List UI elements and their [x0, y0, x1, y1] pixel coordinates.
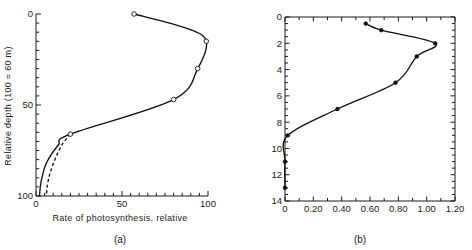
panel-a-data-markers [68, 12, 208, 137]
panel-a-solid-curve [39, 14, 206, 196]
panel-b-tick-marks [285, 17, 455, 201]
panel-b-data-point [364, 22, 368, 26]
panel-b-x-tick-label: 0.40 [332, 203, 351, 214]
panel-b-x-tick-label: 0.80 [389, 203, 408, 214]
panel-b-y-tick-label: 0 [277, 11, 282, 22]
panel-b-x-tick-label: 1.20 [446, 203, 465, 214]
scientific-figure: 050100 050100 Rate of photosynthesis, re… [0, 0, 472, 250]
panel-b-data-point [394, 81, 398, 85]
panel-a: 050100 050100 Rate of photosynthesis, re… [3, 8, 216, 245]
panel-b-y-tick-label: 14 [271, 195, 282, 206]
panel-b-y-tick-label: 2 [277, 38, 282, 49]
panel-b-data-point [283, 160, 287, 164]
panel-a-x-tick-label: 0 [33, 198, 38, 209]
panel-b-axes [285, 17, 455, 201]
panel-a-x-tick-label: 50 [117, 198, 128, 209]
panel-a-y-tick-label: 50 [22, 99, 33, 110]
panel-a-data-point [195, 66, 200, 71]
panel-b-data [283, 22, 437, 190]
panel-a-data-point [132, 12, 137, 17]
panel-a-axis-lines [36, 14, 208, 196]
panel-b-x-tick-label: 0.20 [304, 203, 323, 214]
panel-a-data-point [204, 39, 209, 44]
panel-a-axes [36, 14, 208, 196]
panel-a-y-axis-title: Relative depth (100 = 60 m) [3, 46, 13, 165]
panel-b-data-point [336, 107, 340, 111]
panel-b-solid-curve [283, 24, 436, 188]
panel-a-dashed-curve [46, 134, 70, 196]
panel-b-axis-frame [285, 17, 455, 201]
panel-b-data-point [433, 41, 437, 45]
figure-canvas: 050100 050100 Rate of photosynthesis, re… [0, 0, 472, 250]
panel-a-y-tick-label: 100 [17, 190, 33, 201]
panel-b-y-tick-labels: 02468101214 [271, 11, 282, 206]
panel-b-x-tick-label: 0 [282, 203, 287, 214]
panel-b-x-tick-labels: 00.200.400.600.801.001.20 [282, 203, 464, 214]
panel-a-caption: (a) [114, 234, 126, 245]
panel-b-caption: (b) [354, 234, 366, 245]
panel-a-y-tick-labels: 050100 [17, 8, 33, 201]
panel-b-data-point [286, 133, 290, 137]
panel-b-data-point [379, 28, 383, 32]
panel-b-data-point [283, 186, 287, 190]
panel-b: 00.200.400.600.801.001.20 02468101214 (b… [271, 11, 464, 245]
panel-a-data-point [171, 97, 176, 102]
panel-a-y-tick-label: 0 [28, 8, 33, 19]
panel-b-y-tick-label: 4 [277, 64, 282, 75]
panel-b-x-tick-label: 0.60 [361, 203, 380, 214]
panel-a-tick-marks [36, 14, 208, 196]
panel-b-data-point [415, 55, 419, 59]
panel-a-data [39, 12, 208, 196]
panel-a-x-tick-labels: 050100 [33, 198, 216, 209]
panel-b-y-tick-label: 10 [271, 143, 282, 154]
panel-b-y-tick-label: 12 [271, 169, 282, 180]
panel-a-x-tick-label: 100 [200, 198, 216, 209]
panel-b-y-tick-label: 8 [277, 117, 282, 128]
panel-b-data-markers [283, 22, 437, 190]
panel-a-x-axis-title: Rate of photosynthesis, relative [52, 213, 187, 223]
panel-b-y-tick-label: 6 [277, 90, 282, 101]
panel-a-data-point [68, 132, 73, 137]
panel-b-x-tick-label: 1.00 [417, 203, 436, 214]
